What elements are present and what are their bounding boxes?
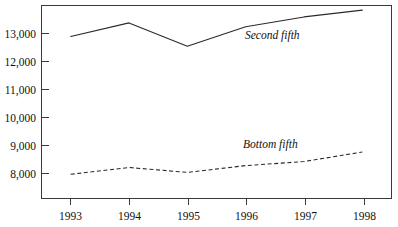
x-axis-label-1995: 1995: [177, 210, 200, 222]
annotation-second-fifth: Second fifth: [245, 29, 300, 42]
x-axis-label-1997: 1997: [294, 210, 317, 222]
annotation-bottom-fifth: Bottom fifth: [243, 138, 298, 151]
x-axis-label-1993: 1993: [59, 210, 82, 222]
y-axis-label-11000: 11,000: [5, 84, 36, 97]
y-axis-label-9000: 9,000: [10, 140, 36, 153]
y-axis-label-12000: 12,000: [4, 56, 36, 69]
y-axis-label-13000: 13,000: [4, 28, 36, 41]
line-chart: 13,000 12,000 11,000 10,000 9,000 8,000 …: [0, 0, 398, 227]
x-axis-label-1994: 1994: [118, 210, 141, 222]
y-axis-label-8000: 8,000: [10, 168, 36, 181]
x-axis-label-1998: 1998: [353, 210, 376, 222]
y-axis-label-10000: 10,000: [4, 112, 36, 125]
chart-container: 13,000 12,000 11,000 10,000 9,000 8,000 …: [0, 0, 398, 227]
chart-background: [0, 0, 398, 227]
x-axis-label-1996: 1996: [235, 210, 258, 222]
